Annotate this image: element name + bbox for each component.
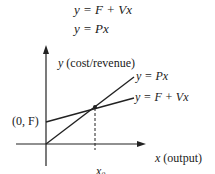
x-axis-arrow-icon [137,141,146,147]
y-axis-label: y (cost/revenue) [52,41,135,71]
intercept-label: (0, F) [12,114,39,129]
label-revenue-line: y = Px [136,69,168,84]
y-axis-arrow-icon [43,45,49,54]
x-axis-label: x (output) [149,136,202,166]
label-cost-line: y = F + Vx [135,90,189,105]
line-cost [46,98,134,122]
x0-label: x0 [90,149,105,174]
